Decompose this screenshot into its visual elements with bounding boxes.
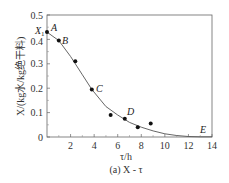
- y-tick-label: 0.3: [31, 58, 44, 69]
- x-axis-title: τ/h: [120, 151, 132, 162]
- data-point: [45, 30, 49, 34]
- point-label-b: B: [62, 35, 68, 46]
- y-tick-label: 0.1: [31, 107, 44, 118]
- y-tick-label: 0.5: [31, 10, 44, 21]
- data-point: [149, 122, 153, 126]
- x-tick-label: 6: [115, 140, 120, 151]
- point-label-d: D: [126, 106, 135, 117]
- x-tick-label: 10: [160, 140, 170, 151]
- x-tick-label: 12: [183, 140, 193, 151]
- y-tick-label: 0: [38, 132, 43, 143]
- point-label-e: E: [199, 124, 206, 135]
- y-tick-label: 0.2: [31, 83, 44, 94]
- plot-frame: [47, 15, 212, 137]
- data-point: [123, 117, 127, 121]
- data-point: [136, 125, 140, 129]
- data-point: [109, 113, 113, 117]
- data-point: [57, 39, 61, 43]
- chart-caption: (a) X - τ: [109, 164, 142, 176]
- x-tick-label: 4: [92, 140, 97, 151]
- fitted-curve: [47, 32, 212, 137]
- x-tick-label: 14: [207, 140, 217, 151]
- point-label-c: C: [96, 83, 103, 94]
- x-tick-label: 8: [139, 140, 144, 151]
- drying-curve-chart: 00.10.20.30.40.5 2468101214 X1 A B C D E…: [0, 0, 229, 183]
- x-tick-label: 2: [68, 140, 73, 151]
- y-tick-label: 0.4: [31, 36, 44, 47]
- data-point: [73, 59, 77, 63]
- point-label-a: A: [50, 22, 58, 33]
- y-axis-title: X/(kg水/kg绝干料): [14, 37, 27, 116]
- data-point: [90, 87, 94, 91]
